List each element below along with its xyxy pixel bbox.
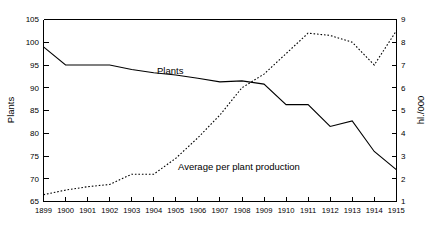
x-axis-ticks	[44, 197, 397, 202]
x-tick-label-1908: 1908	[234, 206, 251, 215]
x-tick-label-1906: 1906	[189, 206, 206, 215]
left-tick-label-70: 70	[30, 175, 39, 184]
right-axis-title: hl./000	[415, 96, 426, 125]
right-tick-label-5: 5	[401, 106, 406, 115]
dual-axis-line-chart: 65 70 75 80 85 90 95 100 105 1 2 3	[0, 0, 435, 238]
x-tick-label-1914: 1914	[366, 206, 383, 215]
x-tick-label-1902: 1902	[101, 206, 118, 215]
left-axis-tick-labels: 65 70 75 80 85 90 95 100 105	[26, 15, 40, 206]
x-tick-label-1915: 1915	[388, 206, 405, 215]
left-tick-label-80: 80	[30, 129, 39, 138]
x-tick-label-1913: 1913	[344, 206, 361, 215]
right-tick-label-4: 4	[401, 129, 406, 138]
chart-container: 65 70 75 80 85 90 95 100 105 1 2 3	[0, 0, 435, 238]
right-tick-label-8: 8	[401, 38, 406, 47]
x-tick-label-1905: 1905	[167, 206, 184, 215]
x-tick-label-1909: 1909	[256, 206, 273, 215]
annotation-average-per-plant-production: Average per plant production	[178, 161, 300, 172]
x-tick-label-1910: 1910	[278, 206, 295, 215]
x-tick-label-1899: 1899	[35, 206, 52, 215]
right-axis-ticks	[392, 20, 397, 202]
right-tick-label-6: 6	[401, 84, 406, 93]
x-axis-tick-labels: 1899 1900 1901 1902 1903 1904 1905 1906 …	[35, 206, 405, 215]
x-tick-label-1912: 1912	[322, 206, 339, 215]
right-tick-label-3: 3	[401, 152, 406, 161]
annotation-plants: Plants	[157, 65, 184, 76]
x-tick-label-1900: 1900	[57, 206, 74, 215]
left-tick-label-85: 85	[30, 106, 39, 115]
left-tick-label-95: 95	[30, 61, 39, 70]
x-tick-label-1907: 1907	[211, 206, 228, 215]
series-line-plants	[44, 47, 397, 170]
x-tick-label-1904: 1904	[145, 206, 162, 215]
left-tick-label-75: 75	[30, 152, 39, 161]
right-tick-label-2: 2	[401, 175, 406, 184]
left-tick-label-100: 100	[26, 38, 40, 47]
x-tick-label-1903: 1903	[123, 206, 140, 215]
x-tick-label-1901: 1901	[79, 206, 96, 215]
left-axis-title: Plants	[5, 97, 16, 124]
plot-frame	[44, 20, 397, 202]
right-axis-tick-labels: 1 2 3 4 5 6 7 8 9	[401, 15, 406, 206]
right-tick-label-9: 9	[401, 15, 406, 24]
left-tick-label-90: 90	[30, 84, 39, 93]
left-tick-label-105: 105	[26, 15, 40, 24]
x-tick-label-1911: 1911	[300, 206, 316, 215]
right-tick-label-7: 7	[401, 61, 406, 70]
